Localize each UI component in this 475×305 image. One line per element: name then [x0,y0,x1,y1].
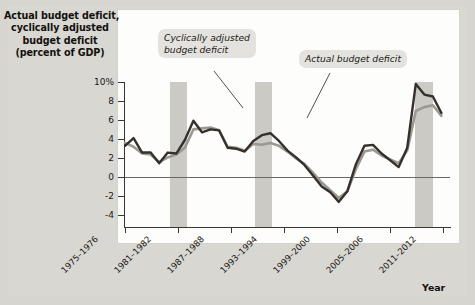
y-label-0: 0 [74,172,114,182]
x-tick-2 [178,228,179,233]
x-tick-1 [125,228,126,233]
y-label-neg4: -4 [74,210,114,220]
y-tick-2 [118,158,125,159]
x-axis-line [124,227,451,228]
y-label-8: 8 [74,96,114,106]
callout-1-line-1: Cyclically adjusted [164,32,250,43]
callout-actual: Actual budget deficit [299,50,407,68]
y-label-2: 2 [74,153,114,163]
y-label-neg2: -2 [74,191,114,201]
callout-2-line-1: Actual budget deficit [305,53,401,64]
figure-root: Actual budget deficit, cyclically adjust… [0,0,475,305]
series-canvas [125,82,450,227]
x-tick-5 [337,228,338,233]
y-label-4: 4 [74,134,114,144]
x-tick-3 [231,228,232,233]
plot-area [125,82,450,227]
x-axis-title: Year [422,282,445,293]
y-tick-0 [118,177,125,178]
y-tick-neg4 [118,215,125,216]
y-tick-neg2 [118,196,125,197]
line-actual-budget-deficit [125,84,441,202]
y-tick-10 [118,82,125,83]
y-label-10: 10% [74,77,114,87]
x-tick-6 [390,228,391,233]
x-tick-4 [284,228,285,233]
y-tick-6 [118,120,125,121]
x-tick-7 [443,228,444,233]
y-tick-4 [118,139,125,140]
callout-1-line-2: budget deficit [164,44,228,55]
line-cyclically-adjusted-budget-deficit [125,105,441,198]
y-tick-8 [118,101,125,102]
y-label-6: 6 [74,115,114,125]
callout-cyclically-adjusted: Cyclically adjusted budget deficit [158,29,256,58]
